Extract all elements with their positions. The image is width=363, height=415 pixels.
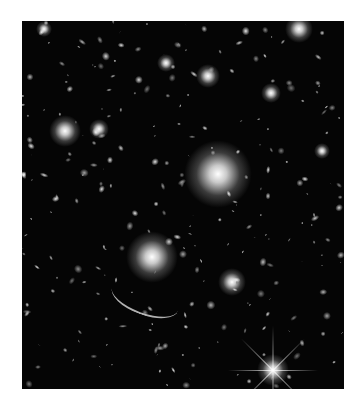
faint-galaxy — [177, 122, 181, 126]
faint-galaxy — [22, 248, 24, 250]
faint-galaxy — [82, 135, 85, 137]
faint-galaxy — [23, 233, 28, 237]
faint-galaxy — [301, 98, 306, 103]
faint-galaxy — [22, 94, 25, 98]
faint-galaxy — [158, 369, 162, 373]
faint-galaxy — [167, 73, 176, 83]
faint-galaxy — [173, 234, 182, 241]
faint-galaxy — [242, 26, 250, 35]
faint-galaxy — [298, 339, 305, 347]
faint-galaxy — [285, 373, 293, 381]
faint-galaxy — [321, 265, 324, 266]
faint-galaxy — [24, 302, 30, 308]
faint-galaxy — [189, 378, 191, 380]
faint-galaxy — [242, 327, 247, 334]
faint-galaxy — [311, 223, 313, 226]
faint-galaxy — [110, 73, 116, 78]
faint-galaxy — [145, 22, 149, 26]
faint-galaxy — [197, 347, 200, 350]
faint-galaxy — [328, 104, 337, 112]
faint-galaxy — [165, 93, 171, 99]
faint-galaxy — [96, 35, 104, 45]
faint-galaxy — [312, 239, 316, 243]
faint-galaxy — [300, 261, 303, 262]
faint-galaxy — [253, 55, 260, 63]
faint-galaxy — [269, 297, 271, 300]
faint-galaxy — [342, 26, 344, 27]
faint-galaxy — [217, 49, 223, 55]
faint-galaxy — [94, 265, 101, 271]
faint-galaxy — [265, 165, 270, 174]
faint-galaxy — [165, 384, 168, 387]
galaxy-right — [314, 143, 330, 159]
galaxy-lower-right — [218, 268, 246, 296]
faint-galaxy — [249, 303, 252, 306]
faint-galaxy — [75, 121, 77, 125]
faint-galaxy — [133, 46, 142, 54]
faint-galaxy — [42, 108, 45, 112]
faint-galaxy — [336, 181, 344, 188]
faint-galaxy — [81, 280, 87, 285]
faint-galaxy — [290, 315, 298, 322]
galaxy-cluster-photo — [22, 21, 344, 389]
faint-galaxy — [315, 90, 320, 95]
faint-galaxy — [193, 245, 196, 248]
faint-galaxy — [217, 217, 222, 222]
faint-galaxy — [133, 91, 137, 95]
faint-galaxy — [101, 108, 103, 110]
faint-galaxy — [71, 357, 75, 362]
faint-galaxy — [104, 274, 107, 276]
faint-galaxy — [226, 242, 230, 246]
faint-galaxy — [35, 364, 41, 369]
faint-galaxy — [142, 83, 152, 94]
faint-galaxy — [77, 339, 80, 343]
faint-galaxy — [22, 103, 26, 106]
faint-galaxy — [305, 192, 309, 196]
faint-galaxy — [236, 373, 239, 375]
faint-galaxy — [126, 221, 134, 231]
faint-galaxy — [170, 366, 176, 373]
faint-galaxy — [77, 45, 82, 49]
faint-galaxy — [182, 324, 189, 330]
faint-galaxy — [161, 209, 167, 216]
faint-galaxy — [260, 214, 262, 217]
faint-galaxy — [94, 66, 97, 68]
faint-galaxy — [292, 350, 303, 361]
faint-galaxy — [259, 144, 261, 146]
faint-galaxy — [106, 88, 113, 92]
faint-galaxy — [67, 150, 73, 156]
faint-galaxy — [331, 360, 336, 365]
faint-galaxy — [118, 42, 125, 48]
faint-galaxy — [107, 156, 114, 163]
faint-galaxy — [135, 76, 143, 84]
diffuse-top-right — [285, 21, 313, 43]
faint-galaxy — [330, 183, 332, 185]
faint-galaxy — [109, 183, 112, 188]
faint-galaxy — [119, 324, 128, 328]
faint-galaxy — [37, 344, 40, 346]
faint-galaxy — [91, 140, 97, 146]
faint-galaxy — [26, 115, 30, 119]
faint-galaxy — [182, 381, 190, 388]
faint-galaxy — [153, 135, 156, 138]
faint-galaxy — [217, 340, 219, 343]
faint-galaxy — [119, 30, 121, 33]
faint-galaxy — [24, 378, 34, 389]
faint-galaxy — [220, 323, 228, 331]
faint-galaxy — [194, 266, 200, 274]
faint-galaxy — [98, 133, 106, 139]
faint-galaxy — [341, 332, 344, 335]
faint-galaxy — [185, 24, 187, 27]
faint-galaxy — [229, 68, 236, 75]
faint-galaxy — [191, 363, 196, 368]
faint-galaxy — [286, 237, 291, 243]
faint-galaxy — [309, 214, 319, 223]
faint-galaxy — [147, 328, 151, 332]
faint-galaxy — [77, 328, 83, 334]
faint-galaxy — [320, 254, 323, 257]
faint-galaxy — [200, 24, 208, 33]
faint-galaxy — [202, 125, 209, 131]
faint-galaxy — [73, 263, 85, 275]
faint-galaxy — [163, 53, 165, 54]
faint-galaxy — [55, 276, 59, 280]
